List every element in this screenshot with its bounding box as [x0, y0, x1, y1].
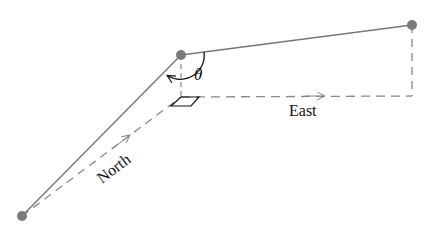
- right-angle-marker: [171, 97, 199, 106]
- north-label: North: [94, 150, 134, 186]
- north-component-line: [22, 97, 181, 216]
- vector-diagram: θ East North: [0, 0, 431, 225]
- north-arrow-icon: [112, 135, 130, 149]
- first-displacement-line: [22, 55, 181, 216]
- middle-point: [176, 50, 186, 60]
- origin-point: [17, 211, 27, 221]
- angle-label: θ: [194, 65, 202, 84]
- east-label: East: [289, 102, 317, 119]
- second-displacement-line: [181, 25, 412, 55]
- east-component-line: [181, 96, 412, 97]
- end-point: [407, 20, 417, 30]
